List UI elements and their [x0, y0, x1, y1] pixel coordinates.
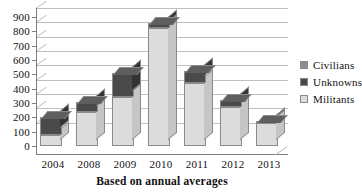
- x-axis-label-2013: 2013: [258, 158, 281, 170]
- legend-swatch-icon: [300, 78, 308, 86]
- x-axis-label-2010: 2010: [150, 158, 173, 170]
- bar-segment-militants-2013[interactable]: [256, 123, 278, 146]
- x-axis-label-2004: 2004: [42, 158, 65, 170]
- y-axis-tick-label: 900: [13, 11, 30, 23]
- bar-segment-militants-2008[interactable]: [76, 112, 98, 146]
- legend-item-civilians[interactable]: Civilians: [300, 56, 362, 73]
- y-axis-tick-label: 500: [13, 68, 30, 80]
- legend-item-militants[interactable]: Militants: [300, 90, 362, 107]
- bar-side-face: [168, 15, 177, 140]
- legend-label: Civilians: [313, 59, 355, 71]
- legend-swatch-icon: [300, 61, 308, 69]
- bar-segment-unknowns-2010[interactable]: [148, 23, 170, 28]
- bar-segment-militants-2009[interactable]: [112, 97, 134, 146]
- legend-label: Unknowns: [313, 76, 362, 88]
- legend-label: Militants: [313, 93, 355, 105]
- y-axis-tick-label: 100: [13, 126, 30, 138]
- x-axis-label-2009: 2009: [114, 158, 137, 170]
- bar-segment-militants-2011[interactable]: [184, 83, 206, 146]
- x-axis-label-2008: 2008: [78, 158, 101, 170]
- chart-legend: CiviliansUnknownsMilitants: [300, 56, 362, 107]
- bar-segment-militants-2010[interactable]: [148, 28, 170, 146]
- y-axis-tick-label: 600: [13, 54, 30, 66]
- x-axis-title: Based on annual averages: [36, 175, 288, 187]
- legend-swatch-icon: [300, 95, 308, 103]
- bar-series-container: [36, 8, 288, 155]
- bar-segment-militants-2012[interactable]: [220, 107, 242, 146]
- plot-area: 0100200300400500600700800900: [36, 8, 288, 155]
- bar-segment-unknowns-2008[interactable]: [76, 102, 98, 112]
- y-axis-tick-label: 300: [13, 97, 30, 109]
- x-axis-label-2012: 2012: [222, 158, 245, 170]
- bar-segment-unknowns-2009[interactable]: [112, 73, 134, 97]
- y-axis-tick-label: 700: [13, 40, 30, 52]
- bar-segment-unknowns-2011[interactable]: [184, 71, 206, 82]
- bar-segment-unknowns-2012[interactable]: [220, 100, 242, 107]
- bar-segment-unknowns-2004[interactable]: [40, 117, 62, 134]
- y-axis-tick-label: 200: [13, 111, 30, 123]
- y-axis-tick-label: 400: [13, 83, 30, 95]
- legend-item-unknowns[interactable]: Unknowns: [300, 73, 362, 90]
- x-axis-label-2011: 2011: [186, 158, 208, 170]
- bar-segment-militants-2004[interactable]: [40, 135, 62, 146]
- y-axis-tick-label: 0: [24, 140, 30, 152]
- bar-segment-unknowns-2013[interactable]: [256, 121, 278, 123]
- x-axis-labels: 2004200820092010201120122013: [36, 158, 288, 172]
- y-axis-tick-label: 800: [13, 25, 30, 37]
- stacked-bar-chart: 0100200300400500600700800900 20042008200…: [0, 0, 362, 195]
